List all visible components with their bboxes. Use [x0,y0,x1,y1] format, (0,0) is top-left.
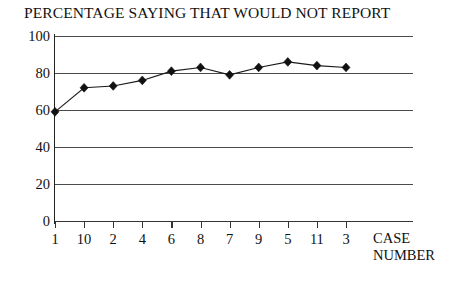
data-point-marker [284,58,292,67]
data-point-marker [80,83,88,92]
data-point-marker [138,76,146,85]
data-point-marker [51,107,59,116]
data-point-marker [167,67,175,76]
data-point-marker [197,63,205,72]
data-point-marker [109,82,117,91]
x-axis-label-line1: CASE [373,230,435,247]
data-point-marker [255,63,263,72]
data-point-marker [313,61,321,70]
x-axis-label: CASE NUMBER [373,230,435,264]
data-point-marker [226,70,234,79]
data-point-marker [342,63,350,72]
x-axis-label-line2: NUMBER [373,247,435,264]
chart-figure: PERCENTAGE SAYING THAT WOULD NOT REPORT … [0,0,456,292]
